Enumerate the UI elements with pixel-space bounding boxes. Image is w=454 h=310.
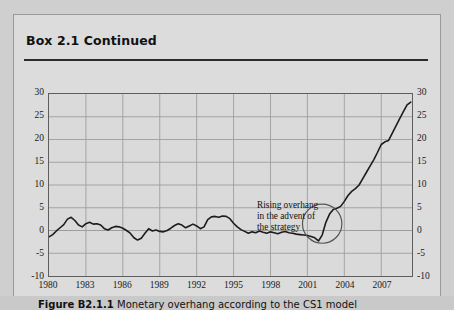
y-tick-right-15: 15	[417, 156, 443, 166]
y-tick-right-10: 10	[417, 179, 443, 189]
y-tick-right-0: 0	[417, 225, 443, 235]
x-tick-1998: 1998	[251, 280, 291, 290]
figure-caption-text: Monetary overhang according to the CS1 m…	[117, 299, 357, 310]
x-tick-2004: 2004	[325, 280, 365, 290]
y-tick-right-5: 5	[417, 202, 443, 212]
box-title: Box 2.1 Continued	[26, 33, 157, 48]
chart-annotation-text: Rising overhang in the advent of the str…	[257, 200, 318, 234]
y-tick-left-25: 25	[18, 110, 44, 120]
x-tick-1995: 1995	[214, 280, 254, 290]
x-tick-2001: 2001	[288, 280, 328, 290]
figure-caption-label: Figure B2.1.1	[38, 299, 114, 310]
chart-container: 302520151050-5-10 302520151050-5-10 1980…	[14, 67, 442, 297]
annotation-line-2: in the advent of	[257, 211, 318, 222]
title-divider	[24, 59, 428, 61]
y-tick-left-15: 15	[18, 156, 44, 166]
x-tick-1992: 1992	[176, 280, 216, 290]
gridlines	[49, 94, 412, 276]
y-tick-left-30: 30	[18, 87, 44, 97]
series-line-monetary-overhang	[49, 102, 411, 241]
y-tick-right-30: 30	[417, 87, 443, 97]
x-tick-1983: 1983	[65, 280, 105, 290]
y-tick-left--5: -5	[18, 248, 44, 258]
line-chart-svg	[49, 94, 412, 276]
y-tick-right--10: -10	[417, 271, 443, 281]
annotation-line-1: Rising overhang	[257, 200, 318, 211]
y-tick-left-20: 20	[18, 133, 44, 143]
box-panel: Box 2.1 Continued 302520151050-5-10 3025…	[13, 14, 441, 296]
annotation-line-3: the strategy	[257, 222, 318, 233]
figure-caption: Figure B2.1.1 Monetary overhang accordin…	[38, 299, 448, 310]
plot-area	[48, 93, 413, 277]
x-tick-1980: 1980	[28, 280, 68, 290]
y-tick-right--5: -5	[417, 248, 443, 258]
y-tick-right-20: 20	[417, 133, 443, 143]
y-tick-left-10: 10	[18, 179, 44, 189]
x-tick-2007: 2007	[362, 280, 402, 290]
x-tick-1986: 1986	[102, 280, 142, 290]
y-tick-left-5: 5	[18, 202, 44, 212]
x-tick-1989: 1989	[139, 280, 179, 290]
y-tick-left-0: 0	[18, 225, 44, 235]
y-tick-right-25: 25	[417, 110, 443, 120]
